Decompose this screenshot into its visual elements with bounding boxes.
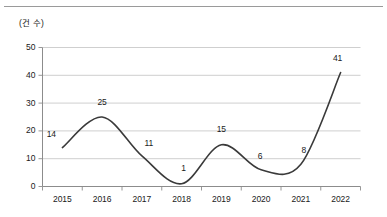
data-point-label: 14	[38, 129, 64, 139]
x-tick-label: 2019	[201, 194, 241, 204]
x-tick-label: 2015	[42, 194, 82, 204]
data-point-label: 6	[247, 151, 273, 161]
x-tick-label: 2016	[82, 194, 122, 204]
y-tick-label: 40	[14, 70, 36, 80]
data-point-label: 1	[171, 163, 197, 173]
data-point-label: 8	[291, 145, 317, 155]
x-tick-marks-group	[39, 48, 361, 191]
y-tick-label: 10	[14, 153, 36, 163]
x-tick-label: 2017	[122, 194, 162, 204]
data-point-label: 41	[325, 53, 351, 63]
data-line-series-1	[62, 73, 340, 184]
x-tick-label: 2022	[321, 194, 361, 204]
data-point-label: 11	[136, 138, 162, 148]
x-tick-label: 2020	[241, 194, 281, 204]
data-point-label: 15	[208, 124, 234, 134]
x-tick-label: 2021	[281, 194, 321, 204]
y-tick-label: 0	[14, 181, 36, 191]
data-point-label: 25	[89, 97, 115, 107]
line-chart-plot	[0, 0, 387, 217]
y-tick-label: 20	[14, 125, 36, 135]
y-tick-label: 30	[14, 98, 36, 108]
x-tick-label: 2018	[162, 194, 202, 204]
chart-figure: (건 수) 01020304050 2015201620172018201920…	[0, 0, 387, 217]
y-tick-label: 50	[14, 42, 36, 52]
